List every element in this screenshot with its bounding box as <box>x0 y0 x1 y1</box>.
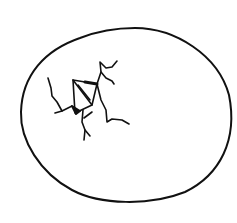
egg-outline <box>21 28 231 202</box>
cracked-egg-drawing <box>0 0 237 223</box>
crack-icon <box>48 61 129 140</box>
